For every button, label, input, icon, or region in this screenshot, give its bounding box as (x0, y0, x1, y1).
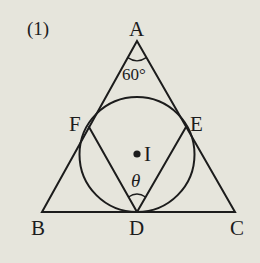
angle-arc-a (128, 58, 146, 61)
label-a: A (129, 17, 145, 41)
label-e: E (190, 112, 203, 136)
angle-label-theta: θ (131, 170, 140, 191)
segment-de (137, 127, 186, 212)
problem-label: (1) (27, 18, 49, 40)
label-f: F (69, 112, 81, 136)
angle-arc-d (129, 194, 146, 197)
angle-label-a: 60° (122, 65, 146, 84)
label-b: B (31, 216, 45, 240)
segment-df (89, 127, 137, 212)
label-d: D (129, 216, 144, 240)
label-c: C (230, 216, 244, 240)
label-i: I (144, 142, 151, 166)
incenter-dot (133, 150, 140, 157)
geometry-diagram: (1) A B C D E F I 60° θ (0, 0, 260, 263)
